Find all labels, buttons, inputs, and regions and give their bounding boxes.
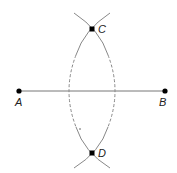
bisector-diagram: A B C D: [0, 0, 177, 173]
point-c: [90, 27, 95, 32]
label-c: C: [98, 23, 106, 35]
point-a: [16, 88, 21, 93]
point-b: [162, 88, 167, 93]
point-d: [90, 151, 95, 156]
tick-mark: [79, 128, 81, 130]
label-b: B: [159, 96, 166, 108]
label-d: D: [98, 147, 106, 159]
label-a: A: [14, 96, 22, 108]
